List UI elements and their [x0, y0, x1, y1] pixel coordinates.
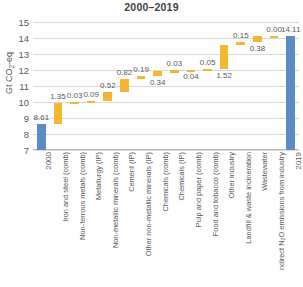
gridline — [33, 54, 299, 55]
x-tick-label: Wastewater — [260, 152, 269, 191]
x-tick-label: Non-metallic minerals (comb) — [111, 152, 120, 248]
x-tick-label: 2000 — [44, 152, 53, 170]
bar-value-label: 14.11 — [281, 25, 300, 34]
x-tick-label: Other industry — [227, 152, 236, 198]
bar-value-label: 1.52 — [216, 71, 232, 80]
x-tick-label: Cement (IP) — [127, 152, 136, 192]
bar-delta[interactable] — [87, 101, 96, 103]
bar-delta[interactable] — [103, 92, 112, 100]
bar-total[interactable] — [286, 36, 295, 150]
x-tick-label: Food and tobacco (comb) — [211, 152, 220, 236]
bar-delta[interactable] — [203, 69, 212, 71]
x-tick-label: Chemicals (IP) — [177, 152, 186, 200]
x-tick-label: Iron and steel (comb) — [61, 152, 70, 222]
y-tick-label: 15 — [0, 17, 29, 28]
gridline — [33, 70, 299, 71]
bar-delta[interactable] — [54, 103, 63, 125]
gridline — [33, 86, 299, 87]
bar-value-label: 0.38 — [250, 44, 266, 53]
bar-value-label: 0.52 — [100, 81, 116, 90]
bar-value-label: 0.00 — [266, 25, 282, 34]
bar-delta[interactable] — [137, 76, 146, 79]
bar-value-label: 0.04 — [183, 72, 199, 81]
x-tick-label: Landfill & waste incineration — [244, 152, 253, 244]
bar-delta[interactable] — [253, 36, 262, 42]
bar-delta[interactable] — [270, 36, 279, 38]
bar-delta[interactable] — [120, 79, 129, 92]
bar-value-label: 0.03 — [67, 91, 83, 100]
y-tick-label: 11 — [0, 81, 29, 92]
bar-delta[interactable] — [236, 42, 245, 44]
bar-total[interactable] — [37, 124, 46, 150]
bar-value-label: 0.15 — [233, 31, 249, 40]
x-tick-label: Pulp and paper (comb) — [194, 152, 203, 227]
plot-area: 7891011121314158.611.350.030.090.520.820… — [33, 22, 299, 150]
bar-value-label: 1.35 — [50, 92, 66, 101]
y-tick-label: 14 — [0, 33, 29, 44]
chart-title: 2000–2019 — [0, 1, 303, 13]
gridline — [33, 22, 299, 23]
bar-value-label: 8.61 — [34, 113, 50, 122]
gridline — [33, 118, 299, 119]
bar-value-label: 0.03 — [167, 59, 183, 68]
y-tick-label: 12 — [0, 65, 29, 76]
x-axis-labels: 2000Iron and steel (comb)Non-ferrous met… — [33, 152, 299, 287]
x-tick-label: 2019 — [294, 152, 303, 170]
x-tick-label: ndirect N2O emissions from industry — [277, 152, 286, 270]
bar-delta[interactable] — [220, 45, 229, 69]
bar-delta[interactable] — [70, 102, 79, 104]
bar-value-label: 0.34 — [150, 78, 166, 87]
bar-value-label: 0.05 — [200, 58, 216, 67]
waterfall-chart: 2000–2019 Gt CO2-eq 7891011121314158.611… — [0, 0, 303, 287]
bar-value-label: 0.19 — [133, 65, 149, 74]
y-tick-label: 8 — [0, 129, 29, 140]
x-tick-label: Non-ferrous metals (comb) — [78, 152, 87, 240]
y-tick-label: 7 — [0, 145, 29, 156]
y-tick-label: 13 — [0, 49, 29, 60]
y-tick-label: 9 — [0, 113, 29, 124]
y-tick-label: 10 — [0, 97, 29, 108]
bar-value-label: 0.82 — [117, 68, 133, 77]
x-tick-label: Other non-metallic minerals (IP) — [144, 152, 153, 256]
bar-value-label: 0.09 — [83, 90, 99, 99]
bar-delta[interactable] — [170, 70, 179, 72]
bar-delta[interactable] — [153, 71, 162, 76]
x-tick-label: Chemicals (comb) — [161, 152, 170, 212]
x-tick-label: Metallurgy (IP) — [94, 152, 103, 200]
gridline — [33, 134, 299, 135]
